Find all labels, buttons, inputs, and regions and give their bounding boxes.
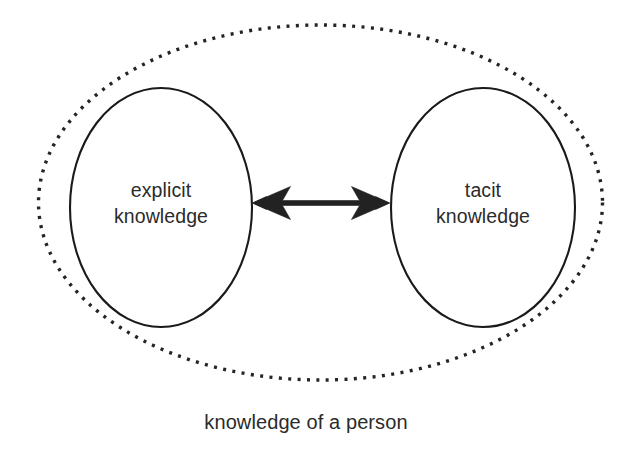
tacit-knowledge-label-line1: tacit — [465, 179, 502, 201]
diagram-caption: knowledge of a person — [204, 411, 407, 433]
bidirectional-arrow[interactable] — [253, 187, 390, 220]
explicit-knowledge-label-line1: explicit — [131, 179, 192, 201]
double-arrow-shape — [253, 187, 390, 220]
explicit-knowledge-label-line2: knowledge — [114, 205, 208, 227]
knowledge-diagram: explicit knowledge tacit knowledge knowl… — [0, 0, 642, 456]
tacit-knowledge-label-line2: knowledge — [436, 205, 530, 227]
diagram-canvas: explicit knowledge tacit knowledge knowl… — [0, 0, 642, 456]
